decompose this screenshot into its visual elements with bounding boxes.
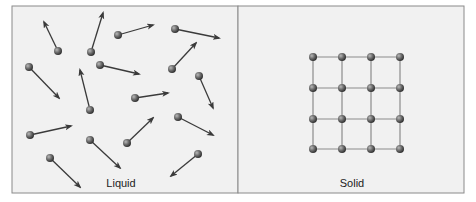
molecule-icon xyxy=(367,145,375,153)
molecule-icon xyxy=(194,150,202,158)
molecule-icon xyxy=(309,145,317,153)
molecule-icon xyxy=(114,31,122,39)
molecule-icon xyxy=(174,113,182,121)
molecule-icon xyxy=(54,47,62,55)
molecule-icon xyxy=(86,106,94,114)
molecule-icon xyxy=(338,84,346,92)
liquid-label: Liquid xyxy=(106,177,135,189)
molecule-icon xyxy=(367,53,375,61)
molecule-icon xyxy=(367,84,375,92)
states-of-matter-diagram xyxy=(0,0,476,202)
molecule-icon xyxy=(396,84,404,92)
molecule-icon xyxy=(87,48,95,56)
solid-label: Solid xyxy=(340,177,364,189)
molecule-icon xyxy=(309,84,317,92)
molecule-icon xyxy=(396,115,404,123)
molecule-icon xyxy=(168,65,176,73)
molecule-icon xyxy=(396,53,404,61)
liquid-panel xyxy=(12,6,238,193)
solid-panel xyxy=(238,6,464,193)
molecule-icon xyxy=(309,115,317,123)
molecule-icon xyxy=(338,115,346,123)
molecule-icon xyxy=(338,53,346,61)
molecule-icon xyxy=(46,154,54,162)
molecule-icon xyxy=(338,145,346,153)
molecule-icon xyxy=(195,72,203,80)
molecule-icon xyxy=(367,115,375,123)
molecule-icon xyxy=(171,25,179,33)
molecule-icon xyxy=(131,94,139,102)
molecule-icon xyxy=(26,131,34,139)
molecule-icon xyxy=(309,53,317,61)
molecule-icon xyxy=(123,139,131,147)
molecule-icon xyxy=(86,136,94,144)
molecule-icon xyxy=(396,145,404,153)
molecule-icon xyxy=(25,63,33,71)
molecule-icon xyxy=(96,61,104,69)
